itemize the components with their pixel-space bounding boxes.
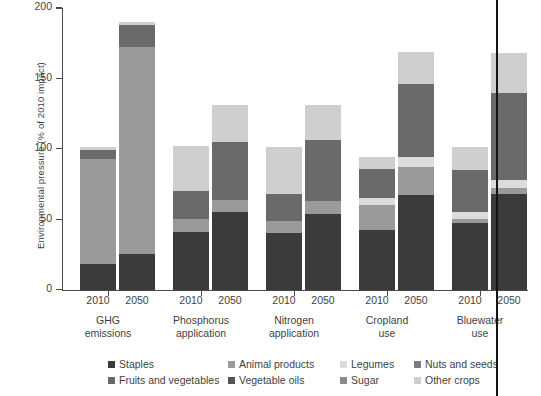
y-axis-line: [62, 8, 63, 291]
bar-segment-fruits-and-vegetables: [212, 142, 248, 200]
bar-nitrogen-application-2050[interactable]: [305, 105, 341, 289]
bar-segment-animal-products: [119, 47, 155, 254]
legend-item-label: Staples: [119, 358, 154, 370]
y-tick: 150: [56, 78, 62, 79]
bar-segment-staples: [359, 230, 395, 289]
legend-item-other-crops[interactable]: Other crops: [414, 374, 480, 386]
bar-segment-animal-products: [266, 221, 302, 234]
legend-item-animal-products[interactable]: Animal products: [228, 358, 314, 370]
y-tick-label: 200: [34, 0, 52, 12]
plot-area: 050100150200: [62, 8, 528, 291]
bar-segment-animal-products: [173, 219, 209, 232]
bar-ghg-emissions-2050[interactable]: [119, 22, 155, 289]
group-label-line1: GHG: [96, 314, 120, 326]
bar-segment-fruits-and-vegetables: [398, 84, 434, 157]
group-label-line2: application: [176, 327, 226, 339]
legend-swatch-icon: [228, 377, 235, 384]
y-axis-title: Environmental pressure (% of 2010 impact…: [35, 21, 46, 291]
bar-segment-fruits-and-vegetables: [305, 140, 341, 201]
legend-item-label: Vegetable oils: [239, 374, 304, 386]
bar-nitrogen-application-2010[interactable]: [266, 147, 302, 289]
bar-segment-legumes: [452, 212, 488, 219]
x-axis-year-label: 2050: [386, 294, 446, 306]
bar-segment-staples: [452, 223, 488, 289]
x-axis-year-label: 2050: [479, 294, 539, 306]
group-label-line1: Cropland: [366, 314, 409, 326]
y-tick-label: 100: [34, 141, 52, 153]
bar-phosphorus-application-2010[interactable]: [173, 146, 209, 290]
bar-segment-animal-products: [212, 200, 248, 213]
bar-segment-fruits-and-vegetables: [359, 169, 395, 199]
legend-item-label: Legumes: [351, 358, 394, 370]
legend-swatch-icon: [414, 361, 421, 368]
group-label-line2: emissions: [85, 327, 132, 339]
bar-segment-staples: [212, 212, 248, 289]
legend-item-staples[interactable]: Staples: [108, 358, 154, 370]
bar-segment-other-crops: [359, 157, 395, 168]
bar-segment-legumes: [359, 198, 395, 205]
bar-segment-fruits-and-vegetables: [266, 194, 302, 221]
bar-ghg-emissions-2010[interactable]: [80, 147, 116, 289]
bar-segment-fruits-and-vegetables: [80, 150, 116, 158]
x-axis-year-label: 2050: [200, 294, 260, 306]
y-tick: 0: [56, 289, 62, 290]
legend-item-label: Nuts and seeds: [425, 358, 498, 370]
legend-swatch-icon: [108, 361, 115, 368]
group-label-line1: Nitrogen: [274, 314, 314, 326]
bar-segment-staples: [119, 254, 155, 289]
legend-swatch-icon: [340, 377, 347, 384]
legend-item-vegetable-oils[interactable]: Vegetable oils: [228, 374, 304, 386]
legend-item-fruits-and-vegetables[interactable]: Fruits and vegetables: [108, 374, 219, 386]
bar-bluewater-use-2010[interactable]: [452, 147, 488, 289]
y-tick-label: 0: [46, 282, 52, 294]
legend-swatch-icon: [414, 377, 421, 384]
legend-item-label: Animal products: [239, 358, 314, 370]
bar-segment-other-crops: [305, 105, 341, 140]
bar-segment-other-crops: [266, 147, 302, 193]
x-axis-year-label: 2050: [107, 294, 167, 306]
legend-item-label: Fruits and vegetables: [119, 374, 219, 386]
bar-segment-other-crops: [398, 52, 434, 84]
bar-segment-fruits-and-vegetables: [173, 191, 209, 219]
y-tick-label: 50: [40, 212, 52, 224]
bar-segment-staples: [398, 195, 434, 289]
bar-segment-staples: [80, 264, 116, 289]
x-axis-group-label: Bluewateruse: [425, 314, 535, 340]
legend-swatch-icon: [228, 361, 235, 368]
legend-swatch-icon: [108, 377, 115, 384]
bar-segment-other-crops: [212, 105, 248, 142]
group-label-line2: use: [472, 327, 489, 339]
bar-segment-staples: [266, 233, 302, 289]
bar-phosphorus-application-2050[interactable]: [212, 105, 248, 289]
bar-cropland-use-2050[interactable]: [398, 52, 434, 290]
bar-segment-other-crops: [452, 147, 488, 170]
legend-item-nuts-and-seeds[interactable]: Nuts and seeds: [414, 358, 498, 370]
legend-item-label: Sugar: [351, 374, 379, 386]
group-label-line2: application: [269, 327, 319, 339]
legend-item-legumes[interactable]: Legumes: [340, 358, 394, 370]
bar-segment-fruits-and-vegetables: [119, 25, 155, 48]
y-tick: 50: [56, 219, 62, 220]
bar-segment-animal-products: [359, 205, 395, 230]
category-axis-labels: 20102050GHGemissions20102050Phosphorusap…: [62, 294, 528, 352]
stacked-bar-chart-figure: Environmental pressure (% of 2010 impact…: [0, 0, 541, 396]
y-tick: 100: [56, 148, 62, 149]
x-axis-year-label: 2050: [293, 294, 353, 306]
legend-item-label: Other crops: [425, 374, 480, 386]
legend-item-sugar[interactable]: Sugar: [340, 374, 379, 386]
bar-segment-animal-products: [80, 159, 116, 265]
y-tick: 200: [56, 7, 62, 8]
chart-legend: StaplesAnimal productsLegumesNuts and se…: [0, 358, 541, 392]
legend-swatch-icon: [340, 361, 347, 368]
bar-cropland-use-2010[interactable]: [359, 157, 395, 289]
bar-segment-staples: [305, 214, 341, 290]
group-label-line1: Phosphorus: [173, 314, 229, 326]
bar-segment-legumes: [398, 157, 434, 167]
y-tick-label: 150: [34, 71, 52, 83]
bar-segment-other-crops: [173, 146, 209, 191]
bar-segment-fruits-and-vegetables: [452, 170, 488, 212]
bar-segment-animal-products: [398, 167, 434, 195]
bar-segment-animal-products: [305, 201, 341, 214]
page-fold-line: [496, 0, 498, 396]
bar-segment-staples: [173, 232, 209, 290]
